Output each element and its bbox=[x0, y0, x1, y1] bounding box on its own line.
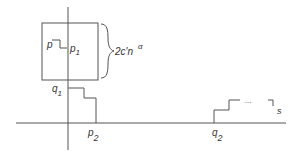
brace bbox=[101, 24, 114, 78]
label-q1: q1 bbox=[52, 83, 62, 98]
dots-label: ... bbox=[245, 96, 252, 105]
diagram-canvas: ... p p1 q1 p2 q2 s 2c'nα bbox=[0, 0, 302, 163]
label-brace: 2c'nα bbox=[114, 42, 143, 57]
staircase-right bbox=[214, 100, 240, 123]
label-p2: p2 bbox=[87, 127, 99, 143]
staircase-right-end bbox=[268, 100, 273, 106]
label-p1: p1 bbox=[69, 43, 80, 57]
staircase-left bbox=[68, 88, 96, 123]
label-q2: q2 bbox=[212, 127, 223, 143]
label-s: s bbox=[277, 106, 282, 116]
step-p bbox=[52, 40, 67, 48]
label-p: p bbox=[46, 39, 53, 50]
